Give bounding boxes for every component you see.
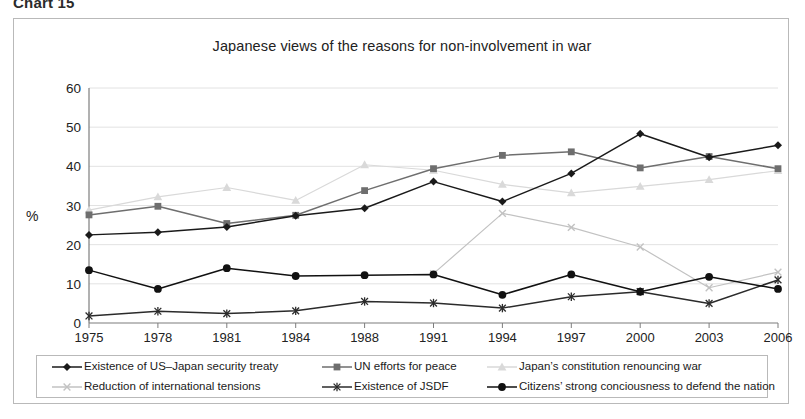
plot-svg — [89, 88, 778, 323]
series-line — [86, 276, 782, 320]
asterisk-marker — [320, 379, 354, 395]
diamond-marker — [636, 130, 644, 138]
y-tick-label: 30 — [47, 198, 81, 213]
diamond-marker — [63, 363, 71, 371]
legend-label: Existence of US–Japan security treaty — [84, 361, 278, 373]
series-line — [85, 130, 782, 239]
cross-x-marker — [50, 379, 84, 395]
y-tick-label: 0 — [47, 316, 81, 331]
series-line — [430, 210, 781, 291]
x-tick-label: 2003 — [695, 330, 724, 345]
square-marker — [637, 165, 644, 172]
legend-row: Reduction of international tensionsExist… — [37, 377, 769, 397]
circle-marker — [774, 285, 782, 293]
circle-marker — [85, 266, 93, 274]
triangle-marker — [222, 183, 231, 191]
x-tick-label: 2006 — [764, 330, 793, 345]
legend-item[interactable]: Existence of US–Japan security treaty — [50, 357, 320, 377]
figure-caption: Chart 15 — [13, 0, 75, 11]
circle-marker — [499, 291, 507, 299]
legend-label: Existence of JSDF — [354, 381, 449, 393]
y-tick-label: 50 — [47, 120, 81, 135]
x-tick-label: 1988 — [350, 330, 379, 345]
circle-marker — [292, 272, 300, 280]
x-tick-label: 1984 — [281, 330, 310, 345]
square-marker — [334, 364, 341, 371]
circle-marker — [485, 379, 519, 395]
x-axis-ticks: 1975197819811984198819911994199720002003… — [89, 330, 778, 350]
square-marker — [86, 212, 93, 219]
x-tick-label: 1975 — [75, 330, 104, 345]
x-tick-label: 1991 — [419, 330, 448, 345]
x-tick-label: 2000 — [626, 330, 655, 345]
y-tick-label: 20 — [47, 237, 81, 252]
diamond-marker — [774, 141, 782, 149]
y-tick-label: 40 — [47, 159, 81, 174]
square-marker — [320, 359, 354, 375]
plot-area — [89, 88, 778, 323]
circle-marker — [223, 264, 231, 272]
y-axis-ticks: 6050403020100 — [47, 88, 81, 323]
legend-item[interactable]: Citizens’ strong conciousness to defend … — [485, 377, 735, 397]
triangle-marker — [360, 160, 369, 168]
triangle-marker — [485, 359, 519, 375]
legend-item[interactable]: Reduction of international tensions — [50, 377, 320, 397]
legend-label: Reduction of international tensions — [84, 381, 260, 393]
circle-marker — [430, 271, 438, 279]
square-marker — [155, 203, 162, 210]
y-axis-label: % — [26, 208, 38, 224]
circle-marker — [361, 271, 369, 279]
diamond-marker — [50, 359, 84, 375]
x-tick-label: 1997 — [557, 330, 586, 345]
circle-marker — [636, 288, 644, 296]
legend-item[interactable]: Existence of JSDF — [320, 377, 485, 397]
chart-screenshot: Chart 15 Japanese views of the reasons f… — [0, 0, 805, 419]
x-tick-label: 1981 — [212, 330, 241, 345]
square-marker — [430, 165, 437, 172]
legend-row: Existence of US–Japan security treatyUN … — [37, 357, 769, 377]
diamond-marker — [85, 231, 93, 239]
diamond-marker — [567, 169, 575, 177]
circle-marker — [498, 383, 506, 391]
x-tick-label: 1978 — [143, 330, 172, 345]
circle-marker — [705, 273, 713, 281]
asterisk-marker — [775, 276, 782, 284]
circle-marker — [154, 285, 162, 293]
diamond-marker — [430, 178, 438, 186]
chart-title: Japanese views of the reasons for non-in… — [14, 38, 790, 54]
x-tick-label: 1994 — [488, 330, 517, 345]
circle-marker — [567, 271, 575, 279]
series-line — [86, 148, 782, 226]
legend-item[interactable]: Japan’s constitution renouncing war — [485, 357, 735, 377]
diamond-marker — [498, 198, 506, 206]
legend-item[interactable]: UN efforts for peace — [320, 357, 485, 377]
chart-legend: Existence of US–Japan security treatyUN … — [36, 355, 768, 398]
y-tick-label: 60 — [47, 81, 81, 96]
chart-frame: Japanese views of the reasons for non-in… — [13, 18, 789, 404]
legend-label: UN efforts for peace — [354, 361, 457, 373]
square-marker — [361, 187, 368, 194]
square-marker — [499, 152, 506, 159]
y-tick-label: 10 — [47, 276, 81, 291]
diamond-marker — [154, 228, 162, 236]
square-marker — [568, 148, 575, 155]
square-marker — [775, 165, 782, 172]
legend-label: Citizens’ strong conciousness to defend … — [519, 381, 775, 393]
legend-label: Japan’s constitution renouncing war — [519, 361, 702, 373]
